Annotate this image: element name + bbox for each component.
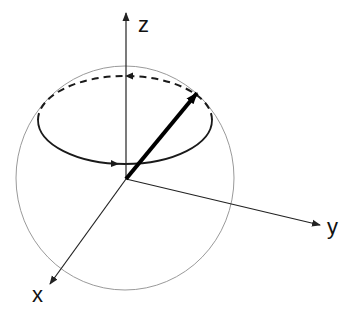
orbit-arrow-front-icon xyxy=(111,160,119,167)
precession-orbit-back-dashed xyxy=(38,76,212,120)
y-axis xyxy=(126,179,320,225)
y-axis-label: y xyxy=(327,214,338,239)
x-axis-label: x xyxy=(32,282,43,307)
x-axis xyxy=(50,179,126,284)
precession-orbit-front xyxy=(38,120,212,164)
state-vector xyxy=(126,93,197,179)
bloch-sphere-diagram: z y x xyxy=(0,0,362,311)
z-axis-label: z xyxy=(138,12,149,37)
